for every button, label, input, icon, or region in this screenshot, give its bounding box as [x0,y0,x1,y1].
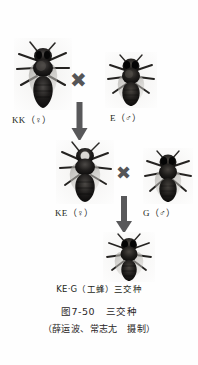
arrow-down-2 [116,196,132,234]
bee-photo-e-drone [105,52,157,108]
bee-photo-kk-queen [14,38,72,110]
honeybee-drone-photo-icon [143,148,193,204]
bee-photo-keg-worker [103,232,155,282]
cross-symbol-2: ✖ [116,164,131,182]
honeybee-worker-photo-icon [103,232,155,282]
figure-caption-main: 图7-50 三交种 [0,304,198,318]
label-keg-worker-result: KE·G（工蜂）三交种 [0,282,198,294]
figure-three-way-cross-diagram: KK（♀） ✖ [0,0,198,365]
figure-caption-credit: （薛运波、常志尢 摄制） [0,322,198,335]
honeybee-queen-photo-icon [56,140,114,204]
label-ke-queen: KE（♀） [55,206,93,219]
downward-arrow-icon [71,102,88,142]
honeybee-queen-photo-icon [14,38,72,110]
bee-photo-ke-queen [56,140,114,204]
honeybee-drone-photo-icon [105,52,157,108]
label-e-drone: E（♂） [110,111,141,124]
cross-symbol-1: ✖ [70,70,87,90]
label-g-drone: G（♂） [143,206,175,219]
downward-arrow-icon [116,196,132,234]
label-kk-queen: KK（♀） [12,113,51,126]
bee-photo-g-drone [143,148,193,204]
arrow-down-1 [71,102,88,142]
